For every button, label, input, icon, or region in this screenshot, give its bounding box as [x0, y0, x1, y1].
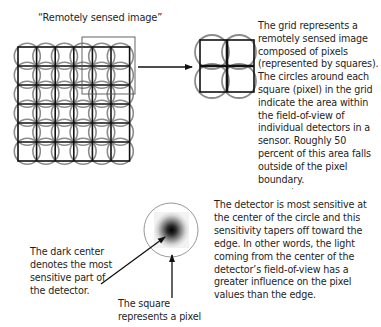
detector-sensitivity-diagram [144, 203, 198, 257]
grid-title: “Remotely sensed image” [38, 12, 162, 25]
remotely-sensed-image-grid [14, 37, 135, 164]
pixel-square-gradient [154, 212, 189, 248]
square-caption: The square represents a pixel [118, 297, 218, 323]
magnified-pixel-grid [195, 35, 256, 98]
stray-dot [292, 188, 293, 189]
detector-description: The detector is most sensitive at the ce… [214, 199, 381, 302]
magnified-pixel-squares [200, 40, 254, 92]
dark-center-caption: The dark center denotes the most sensiti… [30, 245, 120, 297]
grid-description: The grid represents a remotely sensed im… [258, 20, 381, 186]
